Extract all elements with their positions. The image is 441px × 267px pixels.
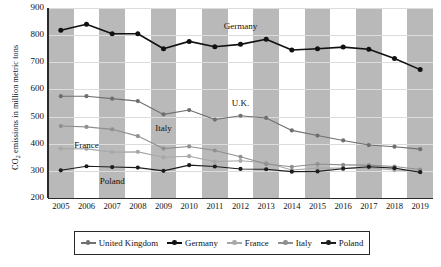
y-axis-tick-labels: 900800700600500400300200 xyxy=(0,0,44,267)
data-point xyxy=(290,165,294,169)
data-point xyxy=(84,164,88,168)
y-tick-label: 700 xyxy=(4,56,44,66)
data-point xyxy=(341,138,345,142)
data-point xyxy=(136,99,140,103)
legend-marker-icon xyxy=(321,239,336,247)
data-point xyxy=(187,108,191,112)
data-point xyxy=(392,166,396,170)
data-point xyxy=(264,162,268,166)
data-point xyxy=(238,114,242,118)
data-point xyxy=(187,144,191,148)
annotation-label: France xyxy=(74,140,99,150)
data-point xyxy=(238,155,242,159)
series-line xyxy=(61,126,420,169)
data-point xyxy=(418,67,423,72)
y-tick-label: 900 xyxy=(4,2,44,12)
data-point xyxy=(264,116,268,120)
legend-item-label: France xyxy=(245,238,269,248)
data-point xyxy=(59,124,63,128)
x-tick-label: 2012 xyxy=(232,201,249,211)
data-point xyxy=(136,166,140,170)
data-point xyxy=(59,94,63,98)
annotation-label: Poland xyxy=(100,176,125,186)
x-tick-label: 2017 xyxy=(360,201,377,211)
data-point xyxy=(392,145,396,149)
data-point xyxy=(136,150,140,154)
x-tick-label: 2019 xyxy=(412,201,429,211)
legend-item[interactable]: Germany xyxy=(167,238,218,248)
data-point xyxy=(84,22,89,27)
annotation-label: Italy xyxy=(155,123,172,133)
data-point xyxy=(315,46,320,51)
x-tick-label: 2011 xyxy=(206,201,223,211)
data-point xyxy=(367,165,371,169)
x-tick-label: 2008 xyxy=(129,201,146,211)
legend-item[interactable]: Poland xyxy=(321,238,363,248)
data-point xyxy=(315,133,319,137)
x-tick-label: 2018 xyxy=(386,201,403,211)
series-line xyxy=(61,24,420,69)
data-point xyxy=(187,39,192,44)
data-point xyxy=(110,127,114,131)
data-point xyxy=(290,128,294,132)
data-point xyxy=(366,47,371,52)
data-point xyxy=(136,134,140,138)
legend-item[interactable]: United Kingdom xyxy=(81,238,158,248)
x-tick-label: 2014 xyxy=(283,201,300,211)
x-tick-label: 2016 xyxy=(335,201,352,211)
data-point xyxy=(213,117,217,121)
data-point xyxy=(264,167,268,171)
x-tick-label: 2005 xyxy=(52,201,69,211)
data-point xyxy=(341,167,345,171)
annotation-label: Germany xyxy=(224,21,258,31)
x-tick-label: 2015 xyxy=(309,201,326,211)
y-tick-label: 300 xyxy=(4,165,44,175)
y-tick-label: 200 xyxy=(4,192,44,202)
data-point xyxy=(84,94,88,98)
x-tick-label: 2009 xyxy=(155,201,172,211)
data-point xyxy=(161,155,165,159)
legend-item[interactable]: France xyxy=(227,238,269,248)
data-point xyxy=(418,147,422,151)
data-point xyxy=(59,168,63,172)
y-tick-label: 800 xyxy=(4,29,44,39)
data-point xyxy=(135,31,140,36)
series-italy xyxy=(59,124,423,172)
legend-item-label: Italy xyxy=(296,238,312,248)
data-point xyxy=(187,163,191,167)
data-point xyxy=(315,169,319,173)
data-point xyxy=(289,48,294,53)
data-point xyxy=(341,45,346,50)
data-point xyxy=(161,46,166,51)
y-tick-label: 600 xyxy=(4,83,44,93)
data-point xyxy=(212,44,217,49)
y-tick-label: 500 xyxy=(4,111,44,121)
y-tick-label: 400 xyxy=(4,138,44,148)
legend-item-label: Poland xyxy=(339,238,363,248)
data-point xyxy=(367,143,371,147)
legend-item[interactable]: Italy xyxy=(278,238,312,248)
data-point xyxy=(238,167,242,171)
data-point xyxy=(341,163,345,167)
data-point xyxy=(110,150,114,154)
x-axis-tick-labels: 2005200620072008200920102011201220132014… xyxy=(48,201,433,217)
x-tick-label: 2010 xyxy=(181,201,198,211)
data-point xyxy=(59,147,63,151)
data-point xyxy=(418,170,422,174)
annotation-label: U.K. xyxy=(232,98,250,108)
data-point xyxy=(187,154,191,158)
data-point xyxy=(238,42,243,47)
y-axis-line xyxy=(47,8,48,198)
data-point xyxy=(213,164,217,168)
data-point xyxy=(213,148,217,152)
x-tick-label: 2006 xyxy=(78,201,95,211)
x-axis-line xyxy=(48,198,433,199)
legend-marker-icon xyxy=(81,239,96,247)
data-point xyxy=(161,112,165,116)
data-point xyxy=(58,28,63,33)
data-point xyxy=(84,125,88,129)
data-point xyxy=(110,31,115,36)
chart-figure: CO2 emissions in million metric tons 900… xyxy=(0,0,441,267)
data-point xyxy=(213,160,217,164)
legend-item-label: United Kingdom xyxy=(99,238,158,248)
